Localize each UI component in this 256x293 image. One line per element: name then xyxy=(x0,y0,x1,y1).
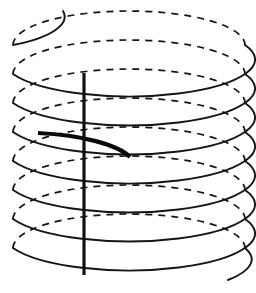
back-arc-8 xyxy=(13,214,245,248)
back-arc-4 xyxy=(13,98,245,132)
helix-front-arcs xyxy=(13,11,255,280)
back-arc-7 xyxy=(13,185,245,219)
front-arc-4 xyxy=(13,132,255,183)
back-arc-3 xyxy=(13,69,245,103)
front-arc-3 xyxy=(13,103,255,154)
back-arc-1 xyxy=(13,11,245,45)
back-arc-2 xyxy=(13,40,245,74)
helix-diagram-svg xyxy=(0,0,256,293)
front-arc-5 xyxy=(13,161,255,212)
front-arc-lead-in xyxy=(13,11,65,45)
back-arc-6 xyxy=(13,156,245,190)
front-arc-1 xyxy=(13,45,255,96)
front-arc-lead-out xyxy=(228,248,252,280)
front-arc-7 xyxy=(13,219,255,270)
front-arc-2 xyxy=(13,74,255,125)
helix-figure xyxy=(0,0,256,293)
front-arc-6 xyxy=(13,190,255,241)
